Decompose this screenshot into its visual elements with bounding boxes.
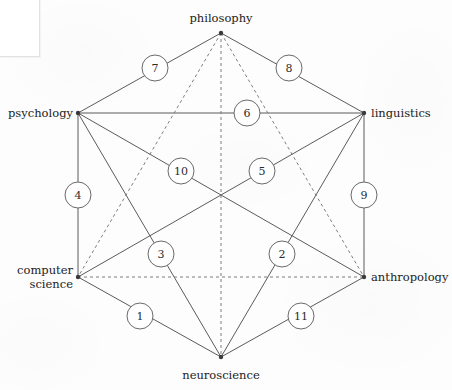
vertex-label-psychology: psychology <box>8 107 73 121</box>
vertex-label-line: philosophy <box>189 12 252 26</box>
vertex-label-neuroscience: neuroscience <box>182 369 260 383</box>
badge-9-label: 9 <box>361 189 368 202</box>
vertex-label-line: psychology <box>8 107 73 121</box>
badge-11-label: 11 <box>294 310 308 323</box>
badge-5-label: 5 <box>259 165 266 178</box>
badge-1[interactable]: 1 <box>127 303 153 329</box>
vertex-label-line: linguistics <box>371 107 431 121</box>
badge-11[interactable]: 11 <box>288 303 314 329</box>
cognitive-science-hexagon-diagram: 1234567891011 philosophylinguisticsanthr… <box>0 0 452 390</box>
badge-8-label: 8 <box>286 62 293 75</box>
vertex-label-linguistics: linguistics <box>371 107 431 121</box>
vertex-dot-neuroscience <box>219 355 223 359</box>
vertex-label-line: computer <box>17 264 73 278</box>
vertex-dot-psychology <box>76 111 80 115</box>
vertex-dot-philosophy <box>219 31 223 35</box>
badge-4[interactable]: 4 <box>65 182 91 208</box>
badge-10-label: 10 <box>174 165 188 178</box>
scan-artifact-rectangle <box>0 0 40 57</box>
hexagon-graph-canvas: 1234567891011 <box>0 0 452 390</box>
badge-10[interactable]: 10 <box>168 158 194 184</box>
vertex-dot-linguistics <box>362 111 366 115</box>
badge-9[interactable]: 9 <box>351 182 377 208</box>
badge-1-label: 1 <box>137 310 144 323</box>
vertex-dot-computer-science <box>76 275 80 279</box>
badge-2[interactable]: 2 <box>269 241 295 267</box>
badge-8[interactable]: 8 <box>276 55 302 81</box>
vertex-dot-anthropology <box>362 275 366 279</box>
badge-4-label: 4 <box>75 189 82 202</box>
badge-3-label: 3 <box>158 248 165 261</box>
badge-3[interactable]: 3 <box>148 241 174 267</box>
vertex-label-computer-science: computerscience <box>17 264 73 291</box>
badge-7-label: 7 <box>152 62 159 75</box>
vertex-label-line: science <box>17 278 73 292</box>
vertex-label-philosophy: philosophy <box>189 12 252 26</box>
vertex-label-line: anthropology <box>371 271 448 285</box>
badge-6-label: 6 <box>244 107 251 120</box>
badge-2-label: 2 <box>279 248 286 261</box>
vertex-label-line: neuroscience <box>182 369 260 383</box>
vertex-label-anthropology: anthropology <box>371 271 448 285</box>
badge-5[interactable]: 5 <box>249 158 275 184</box>
badge-6[interactable]: 6 <box>234 100 260 126</box>
badge-7[interactable]: 7 <box>142 55 168 81</box>
edges-layer <box>78 33 364 357</box>
